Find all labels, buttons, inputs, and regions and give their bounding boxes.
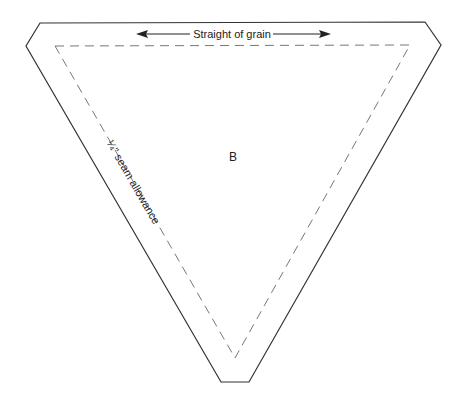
seam-allowance-label: ¼" seam allowance <box>105 138 163 226</box>
grain-arrow: Straight of grain <box>136 28 331 40</box>
inner-seam-line <box>55 45 410 358</box>
grain-label: Straight of grain <box>193 28 271 40</box>
pattern-diagram: Straight of grain B ¼" seam allowance <box>0 0 465 413</box>
piece-label: B <box>229 150 237 164</box>
outer-cut-line <box>26 22 441 382</box>
